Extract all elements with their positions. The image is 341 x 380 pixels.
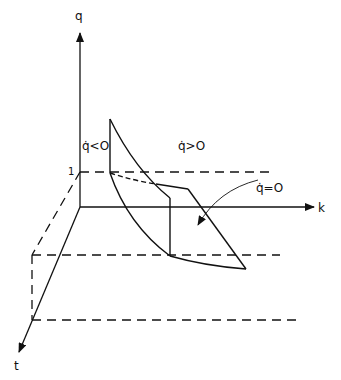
q-dot-positive-label: q̇>O: [178, 139, 205, 153]
q-dot-zero-pointer: [198, 180, 258, 225]
t-axis: [19, 207, 80, 352]
tick-one-label: 1: [68, 166, 74, 177]
q-dot-zero-label: q̇=O: [256, 181, 283, 195]
t-axis-label: t: [14, 359, 19, 373]
k-axis-label: k: [318, 201, 325, 215]
phase-diagram: q k t 1 q̇<O q̇>O q̇=O: [0, 0, 341, 380]
q-dot-negative-label: q̇<O: [82, 139, 109, 153]
q-axis-label: q: [75, 9, 83, 23]
